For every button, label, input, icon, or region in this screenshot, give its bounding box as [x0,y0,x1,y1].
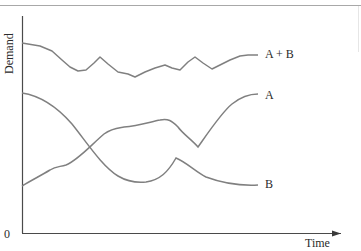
series-b-line [22,93,258,185]
series-b-label: B [265,178,273,190]
origin-label: 0 [4,228,10,240]
y-axis-label: Demand [2,33,17,74]
demand-chart [0,0,361,251]
x-axis-label: Time [305,237,330,249]
series-a-plus-b-label: A + B [265,48,294,60]
series-a-plus-b-line [22,43,258,77]
series-a-label: A [265,89,274,101]
series-a-line [22,94,258,186]
